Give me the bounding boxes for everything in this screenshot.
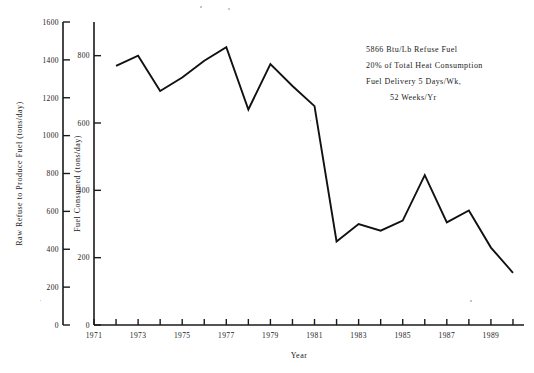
- x-axis-tick-label: 1977: [218, 331, 235, 340]
- x-axis-tick-label: 1973: [130, 331, 147, 340]
- scan-speck: [228, 8, 230, 10]
- x-axis-tick-label: 1971: [86, 331, 103, 340]
- annotation-line: 20% of Total Heat Consumption: [366, 61, 483, 70]
- scan-speck: [200, 6, 202, 8]
- annotation-line: 52 Weeks/Yr: [390, 93, 437, 102]
- chart-container: 02004006008001000120014001600Raw Refuse …: [0, 0, 534, 373]
- fuel-y-axis-tick-label: 200: [78, 253, 90, 262]
- scan-speck: [40, 300, 41, 301]
- x-axis-tick-label: 1981: [306, 331, 323, 340]
- left-y-axis-tick-label: 0: [55, 321, 59, 330]
- scan-speck: [470, 300, 472, 302]
- fuel-y-axis-tick-label: 0: [86, 321, 90, 330]
- left-y-axis-tick-label: 1400: [42, 56, 59, 65]
- left-y-axis-tick-label: 200: [47, 283, 59, 292]
- scan-speck: [310, 120, 311, 121]
- left-y-axis-tick-label: 1200: [42, 94, 59, 103]
- left-y-axis-tick-label: 600: [47, 207, 59, 216]
- x-axis-tick-label: 1979: [262, 331, 279, 340]
- fuel-y-axis-tick-label: 800: [78, 51, 90, 60]
- left-y-axis-tick-label: 800: [47, 169, 59, 178]
- x-axis-tick-label: 1987: [439, 331, 456, 340]
- line-chart: 02004006008001000120014001600Raw Refuse …: [0, 0, 534, 373]
- x-axis-tick-label: 1975: [174, 331, 191, 340]
- fuel-y-axis-title: Fuel Consumed (tons/day): [73, 135, 82, 232]
- left-y-axis-tick-label: 1000: [42, 131, 59, 140]
- x-axis-tick-label: 1983: [350, 331, 367, 340]
- annotation-line: 5866 Btu/Lb Refuse Fuel: [366, 45, 458, 54]
- x-axis-tick-label: 1989: [483, 331, 500, 340]
- x-axis-tick-label: 1985: [394, 331, 411, 340]
- left-y-axis-title: Raw Refuse to Produce Fuel (tons/day): [15, 101, 24, 245]
- left-y-axis-tick-label: 1600: [42, 18, 59, 27]
- left-y-axis-tick-label: 400: [47, 245, 59, 254]
- fuel-y-axis-tick-label: 600: [78, 119, 90, 128]
- x-axis-title: Year: [291, 351, 308, 360]
- annotation-line: Fuel Delivery 5 Days/Wk,: [366, 77, 461, 86]
